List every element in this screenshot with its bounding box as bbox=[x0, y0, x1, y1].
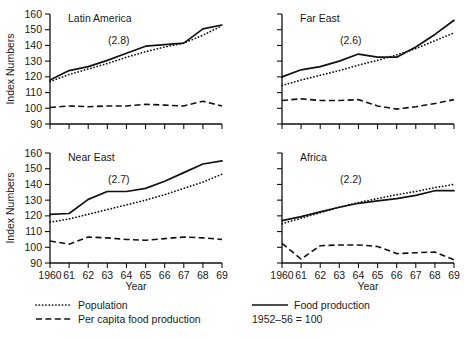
legend-base-note: 1952–56 = 100 bbox=[252, 313, 323, 325]
y-axis-title-bottom: Index Numbers bbox=[4, 172, 16, 243]
series-per_capita_food_production bbox=[282, 99, 454, 109]
y-tick-label: 110 bbox=[25, 86, 42, 98]
series-population bbox=[282, 33, 454, 86]
multi-panel-line-chart: 90100110120130140150160Latin America(2.8… bbox=[0, 0, 465, 338]
chart-legend: PopulationPer capita food productionFood… bbox=[36, 299, 370, 325]
y-tick-label: 100 bbox=[24, 241, 42, 253]
panel-title: Far East bbox=[300, 12, 340, 24]
series-food_production bbox=[50, 25, 222, 80]
x-tick-label: 69 bbox=[216, 269, 228, 281]
panel-africa: 1960616263646566676869Africa(2.2) bbox=[270, 151, 460, 281]
legend-population-label: Population bbox=[78, 299, 128, 311]
y-tick-label: 150 bbox=[24, 23, 42, 35]
panel-title: Latin America bbox=[68, 12, 132, 24]
x-tick-label: 66 bbox=[391, 269, 403, 281]
x-tick-label: 63 bbox=[101, 269, 113, 281]
y-tick-label: 160 bbox=[24, 8, 42, 20]
figure-container: 90100110120130140150160Latin America(2.8… bbox=[0, 0, 465, 338]
y-tick-label: 160 bbox=[24, 147, 42, 159]
series-food_production bbox=[50, 161, 222, 214]
series-per_capita_food_production bbox=[50, 237, 222, 244]
y-tick-label: 90 bbox=[30, 257, 42, 269]
x-tick-label: 67 bbox=[410, 269, 422, 281]
rate-annotation: (2.2) bbox=[340, 173, 362, 185]
y-axis-title-top: Index Numbers bbox=[4, 33, 16, 104]
rate-annotation: (2.6) bbox=[340, 34, 362, 46]
x-tick-label: 62 bbox=[314, 269, 326, 281]
x-tick-label: 61 bbox=[295, 269, 307, 281]
legend-per-capita-label: Per capita food production bbox=[78, 313, 201, 325]
x-tick-label: 1960 bbox=[38, 269, 62, 281]
y-tick-label: 140 bbox=[24, 178, 42, 190]
x-tick-label: 1960 bbox=[270, 269, 294, 281]
series-per_capita_food_production bbox=[282, 243, 454, 259]
series-food_production bbox=[282, 20, 454, 77]
panel-near-east: 9010011012013014015016019606162636465666… bbox=[24, 147, 228, 281]
y-tick-label: 140 bbox=[24, 39, 42, 51]
y-tick-label: 130 bbox=[24, 55, 42, 67]
x-axis-title-right: Year bbox=[357, 280, 379, 292]
rate-annotation: (2.8) bbox=[108, 34, 130, 46]
x-tick-label: 66 bbox=[159, 269, 171, 281]
x-tick-label: 67 bbox=[178, 269, 190, 281]
y-tick-label: 100 bbox=[24, 102, 42, 114]
legend-food-production-label: Food production bbox=[294, 299, 370, 311]
x-tick-label: 61 bbox=[63, 269, 75, 281]
series-per_capita_food_production bbox=[50, 101, 222, 107]
x-tick-label: 68 bbox=[429, 269, 441, 281]
panel-far-east: Far East(2.6) bbox=[277, 12, 454, 129]
panel-title: Near East bbox=[68, 151, 115, 163]
x-axis-title-left: Year bbox=[125, 280, 147, 292]
y-tick-label: 130 bbox=[24, 194, 42, 206]
y-tick-label: 90 bbox=[30, 118, 42, 130]
panel-latin-america: 90100110120130140150160Latin America(2.8… bbox=[24, 8, 222, 130]
series-population bbox=[282, 184, 454, 223]
y-tick-label: 150 bbox=[24, 162, 42, 174]
x-tick-label: 62 bbox=[82, 269, 94, 281]
y-tick-label: 120 bbox=[24, 209, 42, 221]
x-tick-label: 68 bbox=[197, 269, 209, 281]
x-tick-label: 69 bbox=[448, 269, 460, 281]
series-population bbox=[50, 174, 222, 222]
panel-title: Africa bbox=[300, 151, 327, 163]
rate-annotation: (2.7) bbox=[108, 173, 130, 185]
y-tick-label: 120 bbox=[24, 70, 42, 82]
y-tick-label: 110 bbox=[25, 225, 42, 237]
x-tick-label: 63 bbox=[333, 269, 345, 281]
